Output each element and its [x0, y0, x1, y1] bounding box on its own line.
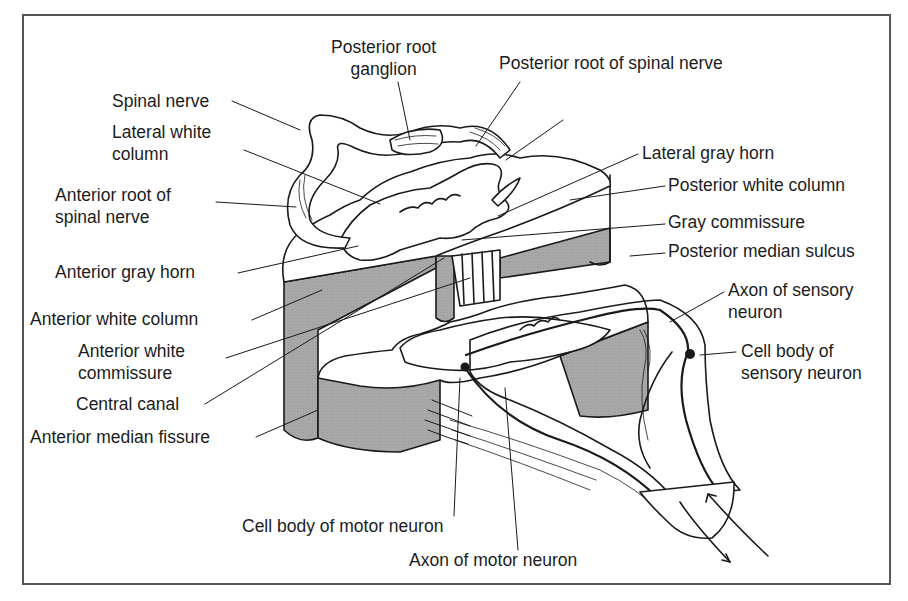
leader-cell-body-motor: [454, 378, 460, 516]
lower-cord-left-side: [318, 378, 440, 452]
label-posterior-root-spinal-nerve: Posterior root of spinal nerve: [499, 52, 723, 74]
label-axon-motor-neuron: Axon of motor neuron: [409, 549, 577, 571]
motor-cell-body-dot: [461, 363, 470, 372]
label-spinal-nerve: Spinal nerve: [112, 90, 209, 112]
label-anterior-white-column: Anterior white column: [30, 308, 198, 330]
label-anterior-white-commissure: Anterior white commissure: [78, 340, 185, 384]
label-anterior-gray-horn: Anterior gray horn: [55, 261, 195, 283]
leader-posterior-root-unlabeled: [506, 120, 563, 160]
label-posterior-median-sulcus: Posterior median sulcus: [668, 240, 855, 262]
label-axon-sensory-neuron: Axon of sensory neuron: [728, 279, 853, 323]
label-posterior-white-column: Posterior white column: [668, 174, 845, 196]
label-anterior-median-fissure: Anterior median fissure: [30, 426, 210, 448]
nerve-cut-end: [640, 482, 734, 538]
label-gray-commissure: Gray commissure: [668, 211, 805, 233]
leader-posterior-root-ganglion: [398, 82, 410, 140]
label-lateral-white-column: Lateral white column: [112, 121, 211, 165]
leader-spinal-nerve: [232, 101, 300, 130]
label-anterior-root-spinal-nerve: Anterior root of spinal nerve: [55, 184, 171, 228]
label-cell-body-motor-neuron: Cell body of motor neuron: [242, 515, 443, 537]
leader-axon-sensory: [670, 292, 724, 322]
label-lateral-gray-horn: Lateral gray horn: [642, 142, 774, 164]
label-central-canal: Central canal: [76, 393, 179, 415]
leader-posterior-median-sulcus: [630, 253, 665, 256]
sensory-cell-body-dot: [685, 349, 695, 359]
leader-anterior-root: [216, 202, 296, 207]
label-cell-body-sensory-neuron: Cell body of sensory neuron: [741, 340, 862, 384]
posterior-root-ganglion: [390, 129, 442, 154]
leader-axon-motor: [505, 388, 518, 550]
label-posterior-root-ganglion: Posterior root ganglion: [331, 36, 436, 80]
